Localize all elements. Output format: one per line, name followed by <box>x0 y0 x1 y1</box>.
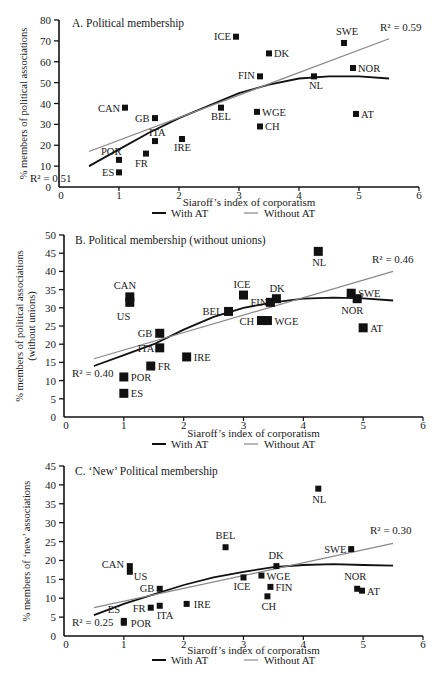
y-tick-label: 40 <box>40 98 52 110</box>
r2-with-at: R² = 0.51 <box>30 172 72 184</box>
point-label-ch: CH <box>261 601 276 612</box>
point-label-por: POR <box>131 618 151 629</box>
legend-label-without-at: Without AT <box>264 654 315 666</box>
point-label-ice: ICE <box>234 279 251 290</box>
point-label-dk: DK <box>268 550 284 561</box>
data-point-at <box>359 588 365 594</box>
point-label-dk: DK <box>274 48 290 59</box>
data-point-at <box>359 323 368 332</box>
point-label-at: AT <box>370 323 383 334</box>
legend-label-without-at: Without AT <box>264 438 315 450</box>
data-point-ita <box>155 343 164 352</box>
point-label-por: POR <box>131 372 151 383</box>
data-point-wge <box>254 109 260 115</box>
trendline-without-at <box>89 39 389 152</box>
data-point-fin <box>267 584 273 590</box>
x-tick-label: 6 <box>420 419 426 431</box>
y-axis-label-line2: (without unions) <box>26 291 38 361</box>
point-label-es: ES <box>131 388 143 399</box>
y-tick-label: 25 <box>45 536 57 548</box>
y-tick-label: 45 <box>45 460 57 472</box>
y-tick-label: 45 <box>45 247 57 259</box>
x-tick-label: 0 <box>63 638 69 650</box>
point-label-dk: DK <box>269 283 285 294</box>
data-point-fr <box>146 362 155 371</box>
trendline-with-at <box>89 76 389 166</box>
y-tick-label: 70 <box>40 35 52 47</box>
point-label-es: ES <box>102 167 114 178</box>
point-label-ice: ICE <box>214 31 231 42</box>
data-point-nor <box>350 65 356 71</box>
data-point-nor <box>353 294 362 303</box>
data-point-dk <box>266 50 272 56</box>
point-label-ire: IRE <box>194 352 211 363</box>
y-tick-label: 10 <box>45 592 57 604</box>
x-tick-label: 2 <box>181 419 187 431</box>
point-label-us: US <box>134 571 148 582</box>
data-point-gb <box>155 329 164 338</box>
point-label-swe: SWE <box>324 544 346 555</box>
y-tick-label: 30 <box>40 118 52 130</box>
point-label-ch: CH <box>239 316 254 327</box>
data-point-ire <box>182 352 191 361</box>
y-tick-label: 20 <box>45 554 57 566</box>
x-tick-label: 1 <box>121 419 127 431</box>
data-point-por <box>116 157 122 163</box>
point-label-us: US <box>117 311 131 322</box>
y-tick-label: 10 <box>45 375 57 387</box>
y-tick-label: 30 <box>45 302 57 314</box>
legend-label-with-at: With AT <box>171 207 208 219</box>
x-tick-label: 0 <box>63 419 69 431</box>
point-label-fr: FR <box>135 158 148 169</box>
data-point-at <box>353 111 359 117</box>
data-point-swe <box>341 40 347 46</box>
y-tick-label: 40 <box>45 479 57 491</box>
data-point-swe <box>348 546 354 552</box>
data-point-nl <box>311 73 317 79</box>
figure: 010203040506070800123456A. Political mem… <box>0 0 440 680</box>
data-point-dk <box>273 563 279 569</box>
point-label-ita: ITA <box>149 127 166 138</box>
r2-without-at: R² = 0.46 <box>372 253 414 265</box>
legend-label-without-at: Without AT <box>264 207 315 219</box>
point-label-ita: ITA <box>138 343 155 354</box>
data-point-gb <box>152 115 158 121</box>
point-label-ire: IRE <box>194 599 211 610</box>
data-point-ita <box>152 138 158 144</box>
point-label-wge: WGE <box>266 571 290 582</box>
r2-with-at: R² = 0.25 <box>72 616 114 628</box>
point-label-fin: FIN <box>250 297 267 308</box>
data-point-bel <box>223 544 229 550</box>
y-tick-label: 50 <box>40 77 52 89</box>
x-tick-label: 6 <box>420 638 426 650</box>
data-point-ch <box>264 593 270 599</box>
data-point-ice <box>241 574 247 580</box>
data-point-fr <box>143 151 149 157</box>
data-point-wge <box>263 316 272 325</box>
y-tick-label: 35 <box>45 498 57 510</box>
x-tick-label: 1 <box>121 638 127 650</box>
point-label-nl: NL <box>312 257 326 268</box>
y-tick-label: 5 <box>51 611 57 623</box>
x-tick-label: 0 <box>58 189 64 201</box>
x-tick-label: 1 <box>116 189 122 201</box>
panel-title: B. Political membership (without unions) <box>75 234 266 247</box>
point-label-gb: GB <box>135 113 150 124</box>
data-point-gb <box>157 586 163 592</box>
y-tick-label: 25 <box>45 320 57 332</box>
y-axis-label: % members of political associations <box>14 250 25 402</box>
point-label-fin: FIN <box>238 70 255 81</box>
y-tick-label: 50 <box>45 229 57 241</box>
point-label-nor: NOR <box>341 305 363 316</box>
data-point-nl <box>315 486 321 492</box>
y-tick-label: 80 <box>40 14 52 26</box>
data-point-es <box>119 389 128 398</box>
r2-without-at: R² = 0.59 <box>380 21 422 33</box>
data-point-us <box>125 298 134 307</box>
point-label-swe: SWE <box>336 26 358 37</box>
y-tick-label: 15 <box>45 573 57 585</box>
data-point-can <box>127 563 133 569</box>
point-label-nor: NOR <box>344 571 366 582</box>
point-label-ch: CH <box>265 121 280 132</box>
y-axis-label: % members of political associations <box>18 28 29 180</box>
